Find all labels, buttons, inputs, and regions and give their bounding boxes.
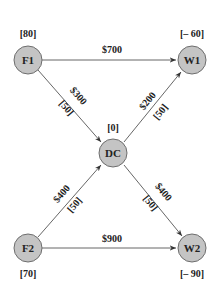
node-w1: W1 [– 60] <box>178 28 206 74</box>
node-f1-label: F1 <box>22 54 34 66</box>
node-f2-supply: [70] <box>20 268 37 279</box>
node-w2-supply: [– 90] <box>180 268 204 279</box>
node-dc: DC [0] <box>99 122 127 167</box>
edge-dc-w1: $200 [50] <box>124 72 181 142</box>
edge-f1-w1: $700 <box>42 44 176 60</box>
node-w1-supply: [– 60] <box>180 28 204 39</box>
edge-f2-dc: $400 [50] <box>38 165 101 237</box>
node-dc-label: DC <box>105 147 121 159</box>
node-f1-supply: [80] <box>20 28 37 39</box>
node-dc-supply: [0] <box>107 122 119 133</box>
node-w1-label: W1 <box>184 54 201 66</box>
edge-f2-dc-capacity: [50] <box>65 195 84 215</box>
edge-f2-w2-cost: $900 <box>102 233 122 244</box>
network-diagram: $700 $300 [50] $200 [50] $400 [50] $400 … <box>0 0 220 288</box>
node-f2: F2 [70] <box>14 234 42 279</box>
edge-f2-w2: $900 <box>42 233 176 248</box>
node-f1: F1 [80] <box>14 28 42 74</box>
node-f2-label: F2 <box>22 242 35 254</box>
edge-f1-dc: $300 [50] <box>38 70 101 142</box>
edge-f1-dc-capacity: [50] <box>57 98 76 118</box>
node-w2-label: W2 <box>184 242 201 254</box>
edge-dc-w2: $400 [50] <box>124 165 182 236</box>
edge-dc-w2-capacity: [50] <box>141 193 160 213</box>
edge-dc-w1-capacity: [50] <box>151 102 170 122</box>
edge-f1-w1-cost: $700 <box>102 44 122 55</box>
node-w2: W2 [– 90] <box>178 234 206 279</box>
